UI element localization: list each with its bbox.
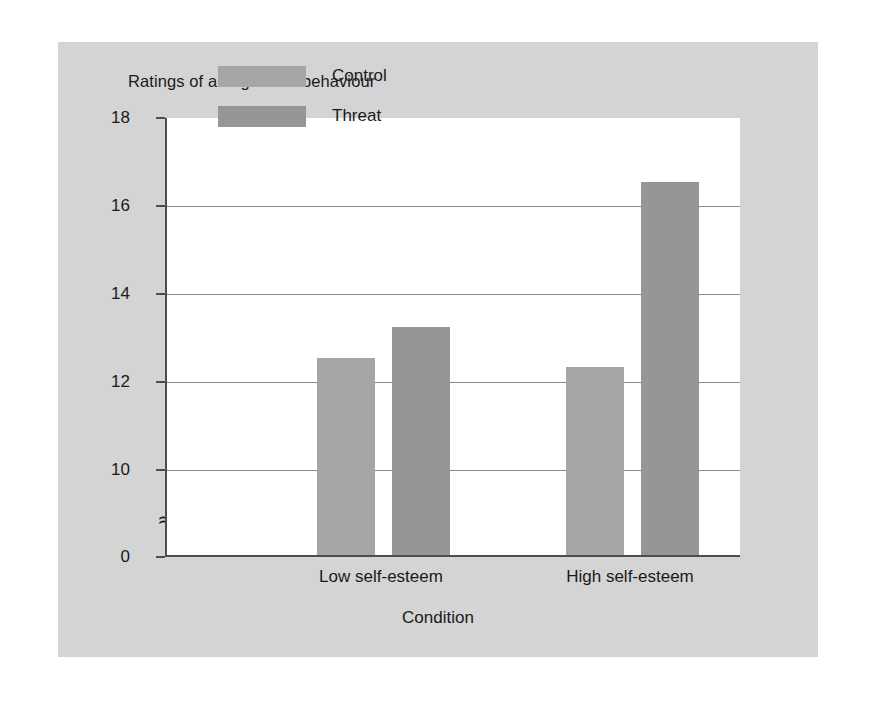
y-tick-label: 18 (70, 108, 130, 128)
figure-panel: Ratings of antagonistic behaviour 010121… (58, 42, 818, 657)
y-tick-label: 12 (70, 372, 130, 392)
bar (566, 367, 624, 555)
y-tick-mark (156, 556, 165, 558)
legend-item: Threat (218, 100, 387, 132)
bar-body (392, 327, 450, 555)
x-tick-label: High self-esteem (566, 567, 694, 587)
legend-label: Threat (332, 106, 381, 126)
bar (641, 182, 699, 555)
y-tick-label: 14 (70, 284, 130, 304)
y-tick-label: 10 (70, 460, 130, 480)
y-tick-mark (156, 117, 165, 119)
y-tick-mark (156, 469, 165, 471)
plot-area (165, 118, 740, 557)
x-axis-label: Condition (58, 608, 818, 628)
legend-item: Control (218, 60, 387, 92)
legend-swatch (218, 66, 306, 87)
bar-body (317, 358, 375, 555)
chart-legend: ControlThreat (218, 60, 387, 140)
bar (317, 358, 375, 555)
y-tick-label: 16 (70, 196, 130, 216)
bar (392, 327, 450, 555)
legend-label: Control (332, 66, 387, 86)
y-tick-mark (156, 205, 165, 207)
y-tick-mark (156, 381, 165, 383)
y-tick-mark (156, 293, 165, 295)
legend-swatch (218, 106, 306, 127)
bar-body (641, 182, 699, 555)
y-tick-label: 0 (70, 547, 130, 567)
plot-inner (167, 118, 740, 555)
bar-body (566, 367, 624, 555)
x-tick-label: Low self-esteem (319, 567, 443, 587)
